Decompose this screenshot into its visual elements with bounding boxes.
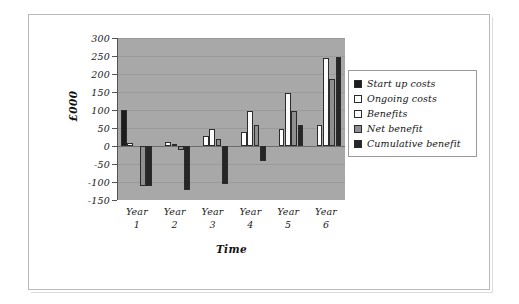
x-axis-tick-label: Year1	[118, 205, 156, 231]
bar-group	[118, 38, 156, 200]
x-axis-tick-label-line2: 5	[269, 218, 307, 231]
y-axis-tick-mark	[112, 74, 117, 75]
bar	[329, 79, 335, 146]
y-axis-tick-label: 50	[70, 123, 110, 134]
bar	[216, 139, 222, 146]
bar	[222, 146, 228, 184]
legend-item-label: Ongoing costs	[367, 93, 437, 104]
bar	[172, 144, 178, 146]
x-axis-tick-label: Year3	[194, 205, 232, 231]
y-axis-tick-mark	[112, 56, 117, 57]
bar	[146, 146, 152, 186]
bar-group	[156, 38, 194, 200]
bar	[291, 111, 297, 146]
bar	[203, 136, 209, 146]
x-axis-tick-label: Year4	[232, 205, 270, 231]
y-axis-tick-label: -50	[70, 159, 110, 170]
x-axis-tick-label: Year5	[269, 205, 307, 231]
bar	[178, 146, 184, 150]
y-axis-tick-label: 100	[70, 105, 110, 116]
x-axis-title: Time	[118, 243, 345, 255]
bar-group	[269, 38, 307, 200]
y-axis-line	[117, 38, 118, 200]
bar	[140, 146, 146, 186]
x-axis-tick-label: Year6	[307, 205, 345, 231]
bar	[127, 143, 133, 146]
legend-swatch-icon	[354, 80, 362, 88]
y-axis-tick-label: -100	[70, 177, 110, 188]
bar	[247, 111, 253, 146]
x-axis-tick-labels: Year1Year2Year3Year4Year5Year6	[118, 203, 345, 243]
bar	[298, 125, 304, 146]
y-axis-tick-mark	[112, 146, 117, 147]
bar	[121, 110, 127, 146]
y-axis-tick-labels: 300250200150100500-50-100-150	[62, 0, 110, 304]
y-axis-tick-label: 200	[70, 69, 110, 80]
legend-swatch-icon	[354, 110, 362, 118]
legend-swatch-icon	[354, 140, 362, 148]
bar	[241, 132, 247, 146]
bar-group	[232, 38, 270, 200]
bar	[254, 125, 260, 146]
y-axis-tick-label: 250	[70, 51, 110, 62]
y-axis-tick-label: -150	[70, 195, 110, 206]
legend-item-label: Net benefit	[367, 123, 423, 134]
x-axis-tick-label-line2: 1	[118, 218, 156, 231]
bar	[317, 125, 323, 146]
legend-item: Ongoing costs	[354, 91, 470, 106]
x-axis-tick-label-line1: Year	[315, 206, 337, 217]
grouped-bar-chart: £000 300250200150100500-50-100-150 Year1…	[0, 0, 519, 304]
bar	[285, 93, 291, 146]
y-axis-tick-label: 300	[70, 33, 110, 44]
bar	[260, 146, 266, 161]
bar	[209, 129, 215, 146]
legend-item-label: Cumulative benefit	[367, 138, 461, 149]
x-axis-tick-label-line1: Year	[164, 206, 186, 217]
bar	[165, 142, 171, 146]
chart-legend: Start up costsOngoing costsBenefitsNet b…	[348, 70, 477, 157]
legend-item-label: Benefits	[367, 108, 407, 119]
legend-item-label: Start up costs	[367, 78, 436, 89]
x-axis-tick-label-line2: 4	[232, 218, 270, 231]
bar	[184, 146, 190, 190]
legend-item: Cumulative benefit	[354, 136, 470, 151]
legend-item: Benefits	[354, 106, 470, 121]
plot-area	[118, 38, 345, 200]
y-axis-tick-mark	[112, 200, 117, 201]
y-axis-tick-mark	[112, 182, 117, 183]
y-axis-tick-mark	[112, 38, 117, 39]
y-axis-tick-mark	[112, 92, 117, 93]
bar	[279, 129, 285, 146]
y-axis-tick-mark	[112, 164, 117, 165]
x-axis-tick-label-line2: 2	[156, 218, 194, 231]
bar-group	[194, 38, 232, 200]
bar	[323, 58, 329, 146]
x-axis-tick-label-line2: 3	[194, 218, 232, 231]
bar-group	[307, 38, 345, 200]
x-axis-tick-label-line1: Year	[239, 206, 261, 217]
x-axis-tick-label-line1: Year	[202, 206, 224, 217]
x-axis-tick-label: Year2	[156, 205, 194, 231]
x-axis-tick-label-line2: 6	[307, 218, 345, 231]
legend-item: Start up costs	[354, 76, 470, 91]
bar	[336, 57, 342, 146]
legend-swatch-icon	[354, 125, 362, 133]
y-axis-tick-label: 150	[70, 87, 110, 98]
y-axis-tick-mark	[112, 128, 117, 129]
legend-swatch-icon	[354, 95, 362, 103]
y-axis-tick-mark	[112, 110, 117, 111]
y-axis-tick-label: 0	[70, 141, 110, 152]
x-axis-tick-label-line1: Year	[126, 206, 148, 217]
x-axis-tick-label-line1: Year	[277, 206, 299, 217]
legend-item: Net benefit	[354, 121, 470, 136]
